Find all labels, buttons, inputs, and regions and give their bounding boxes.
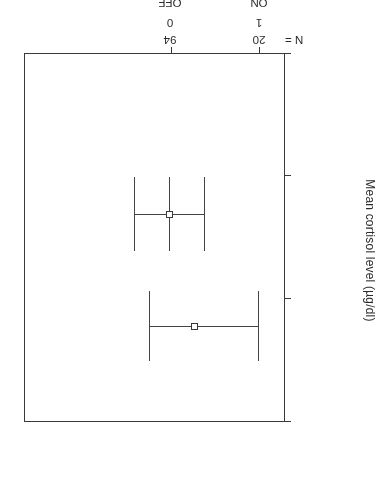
y-tick-mark: [285, 53, 291, 54]
x-count-on: 20: [229, 34, 289, 46]
x-tick-mark: [171, 47, 172, 53]
x-code-off: 0: [140, 17, 200, 29]
chart-figure: Mean cortisol level (µg/dl) 0.6 0.5 0.4 …: [0, 0, 385, 501]
y-tick-mark: [285, 421, 291, 422]
x-group-label-on: ON: [229, 0, 289, 9]
y-tick-mark: [285, 298, 291, 299]
x-group-label-off: OFF: [140, 0, 200, 9]
n-label: N =: [285, 34, 329, 46]
rotated-figure-wrapper: Mean cortisol level (µg/dl) 0.6 0.5 0.4 …: [0, 0, 385, 501]
x-count-off: 94: [140, 34, 200, 46]
x-axis: [24, 45, 285, 53]
mean-marker-on: [191, 323, 198, 330]
x-tick-mark: [259, 47, 260, 53]
y-tick-mark: [285, 175, 291, 176]
errorbar-cap-low: [258, 291, 259, 361]
plot-area: [24, 53, 285, 422]
errorbar-on: [23, 52, 284, 421]
y-axis: 0.6 0.5 0.4 0.3: [285, 0, 385, 501]
errorbar-cap: [149, 326, 259, 327]
errorbar-cap-high: [149, 291, 150, 361]
x-code-on: 1: [229, 17, 289, 29]
